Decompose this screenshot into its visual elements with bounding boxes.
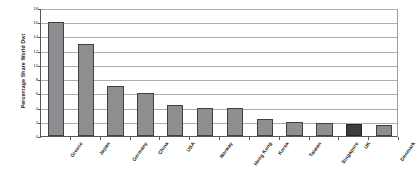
x-axis-tick [159, 137, 160, 140]
x-axis-tick [398, 137, 399, 140]
bar-korea [257, 119, 273, 136]
x-axis-label-norway: Norway [219, 141, 234, 159]
x-axis-tick [70, 137, 71, 140]
x-axis-tick [309, 137, 310, 140]
y-axis-tick-label: 12 [33, 50, 38, 54]
x-axis-tick [130, 137, 131, 140]
x-axis-label-singapore: Singapore [341, 141, 360, 165]
bar-uk [346, 124, 362, 136]
x-axis-label-uk: UK [363, 141, 371, 150]
x-axis-label-usa: USA [186, 141, 196, 153]
x-axis-tick [100, 137, 101, 140]
y-axis-tick-label: 14 [33, 35, 38, 39]
y-axis-tick-label: 0 [36, 135, 38, 139]
x-axis-label-hong-kong: Hong Kong [253, 141, 273, 167]
y-axis-tick-label: 10 [33, 64, 38, 68]
x-axis-category-labels: GreeceJapanGermanyChinaUSANorwayHong Kon… [40, 141, 398, 183]
bar-china [137, 93, 153, 136]
bar-japan [78, 44, 94, 136]
x-axis-label-denmark: Denmark [400, 141, 416, 162]
y-axis-tick-label: 2 [36, 121, 38, 125]
y-axis-tick-label: 4 [36, 106, 38, 110]
bar-greece [48, 22, 64, 136]
bar-usa [167, 105, 183, 136]
y-axis-tick-labels: 024681012141618 [27, 9, 39, 137]
bar-germany [107, 86, 123, 136]
x-axis-label-korea: Korea [277, 141, 290, 156]
x-axis-tick [219, 137, 220, 140]
bars-layer [41, 9, 397, 136]
bar-taiwan [286, 122, 302, 136]
bar-hong-kong [227, 108, 243, 136]
plot-area [40, 9, 398, 137]
x-axis-tick [368, 137, 369, 140]
y-axis-tick-label: 8 [36, 78, 38, 82]
x-axis-label-japan: Japan [98, 141, 111, 156]
bar-singapore [316, 123, 332, 136]
bar-norway [197, 108, 213, 136]
y-axis-tick-label: 16 [33, 21, 38, 25]
y-axis-tick-label: 6 [36, 92, 38, 96]
x-axis-label-germany: Germany [131, 141, 148, 162]
x-axis-tick [249, 137, 250, 140]
x-axis-tick [338, 137, 339, 140]
x-axis-label-taiwan: Taiwan [308, 141, 322, 158]
y-axis-tick-label: 18 [33, 7, 38, 11]
x-axis-label-greece: Greece [69, 141, 83, 158]
x-axis-label-china: China [158, 141, 170, 156]
bar-denmark [376, 125, 392, 136]
x-axis-tick [279, 137, 280, 140]
